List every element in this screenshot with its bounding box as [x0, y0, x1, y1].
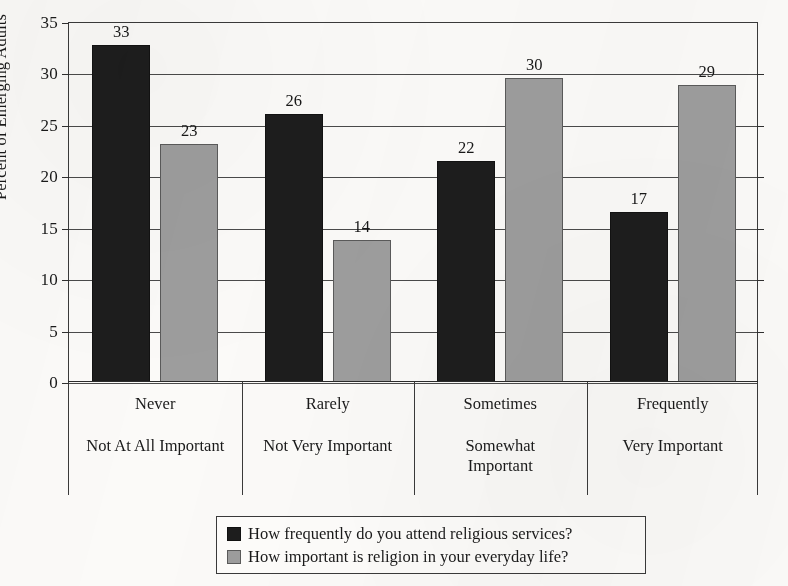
- y-axis-tick-right: [757, 229, 764, 230]
- legend-item-0[interactable]: How frequently do you attend religious s…: [227, 522, 636, 545]
- y-axis-tick: [62, 280, 69, 281]
- category-label-secondary: Not Very Important: [242, 436, 415, 456]
- bar-sometimes-series1: 30: [505, 78, 563, 382]
- category-cell-never: NeverNot At All Important: [69, 382, 242, 495]
- legend-label-1: How important is religion in your everyd…: [248, 548, 568, 566]
- gridline: [69, 74, 757, 75]
- bar-value-label: 14: [354, 217, 371, 237]
- legend: How frequently do you attend religious s…: [216, 516, 646, 574]
- bar-value-label: 29: [699, 62, 716, 82]
- y-axis-tick: [62, 23, 69, 24]
- y-axis-tick-label: 30: [41, 64, 58, 84]
- category-cell-rarely: RarelyNot Very Important: [242, 382, 415, 495]
- category-label-secondary: Not At All Important: [69, 436, 242, 456]
- y-axis-tick-label: 15: [41, 219, 58, 239]
- category-label-primary: Sometimes: [414, 394, 587, 413]
- legend-item-1[interactable]: How important is religion in your everyd…: [227, 545, 636, 568]
- bar-value-label: 22: [458, 138, 475, 158]
- y-axis-title: Percent of Emerging Adults: [0, 14, 11, 200]
- category-axis-band: NeverNot At All ImportantRarelyNot Very …: [68, 382, 758, 495]
- y-axis-tick-right: [757, 126, 764, 127]
- gridline: [69, 126, 757, 127]
- legend-swatch-light-icon: [227, 550, 241, 564]
- y-axis-tick-right: [757, 177, 764, 178]
- y-axis-tick-right: [757, 280, 764, 281]
- bar-frequently-series1: 29: [678, 85, 736, 382]
- bar-value-label: 33: [113, 22, 130, 42]
- y-axis-tick: [62, 332, 69, 333]
- category-label-secondary: Very Important: [587, 436, 760, 456]
- bar-chart: Percent of Emerging Adults 0510152025303…: [0, 0, 788, 586]
- y-axis-tick: [62, 126, 69, 127]
- y-axis-tick-label: 20: [41, 167, 58, 187]
- y-axis-tick: [62, 229, 69, 230]
- plot-area: 051015202530353323261422301729: [68, 22, 758, 382]
- bar-value-label: 30: [526, 55, 543, 75]
- y-axis-tick: [62, 74, 69, 75]
- bar-value-label: 23: [181, 121, 198, 141]
- y-axis-tick-right: [757, 74, 764, 75]
- y-axis-tick-label: 5: [49, 322, 58, 342]
- category-cell-frequently: FrequentlyVery Important: [587, 382, 760, 495]
- legend-swatch-dark-icon: [227, 527, 241, 541]
- bar-never-series1: 23: [160, 144, 218, 382]
- category-label-primary: Never: [69, 394, 242, 413]
- category-label-primary: Rarely: [242, 394, 415, 413]
- category-label-secondary: Somewhat Important: [440, 436, 560, 476]
- y-axis-tick-label: 35: [41, 13, 58, 33]
- bar-sometimes-series0: 22: [437, 161, 495, 382]
- y-axis-tick: [62, 177, 69, 178]
- y-axis-tick-label: 25: [41, 116, 58, 136]
- bar-value-label: 26: [286, 91, 303, 111]
- bar-never-series0: 33: [92, 45, 150, 382]
- bar-rarely-series0: 26: [265, 114, 323, 382]
- bar-frequently-series0: 17: [610, 212, 668, 382]
- bar-rarely-series1: 14: [333, 240, 391, 382]
- y-axis-tick-right: [757, 332, 764, 333]
- category-cell-sometimes: SometimesSomewhat Important: [414, 382, 587, 495]
- legend-label-0: How frequently do you attend religious s…: [248, 525, 572, 543]
- bar-value-label: 17: [631, 189, 648, 209]
- y-axis-tick-label: 0: [49, 373, 58, 393]
- category-label-primary: Frequently: [587, 394, 760, 413]
- y-axis-tick-label: 10: [41, 270, 58, 290]
